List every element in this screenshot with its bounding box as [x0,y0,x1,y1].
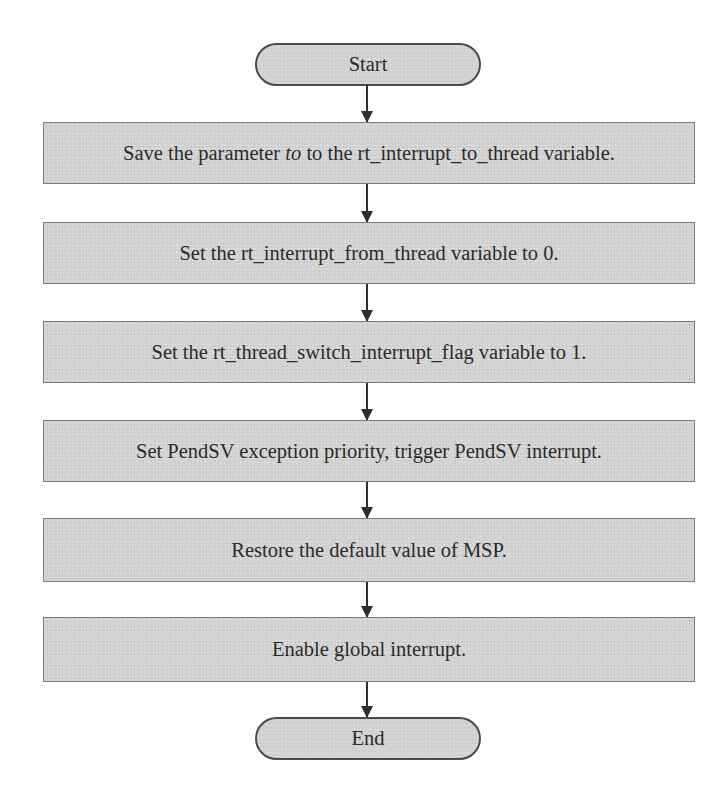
step-4-label: Set PendSV exception priority, trigger P… [136,440,602,463]
step-1-save-parameter: Save the parameter to to the rt_interrup… [43,122,695,184]
step-5-restore-msp: Restore the default value of MSP. [43,518,695,582]
step-1-label: Save the parameter to to the rt_interrup… [123,142,615,165]
arrow-step-6-to-end [366,682,368,717]
step-1-text-pre: Save the parameter [123,142,285,164]
step-5-label: Restore the default value of MSP. [231,539,507,562]
arrow-step-1-to-step-2 [366,184,368,222]
step-1-text-emphasis: to [285,142,301,164]
step-6-label: Enable global interrupt. [272,638,466,661]
step-3-label: Set the rt_thread_switch_interrupt_flag … [152,341,587,364]
arrow-step-2-to-step-3 [366,284,368,321]
arrow-start-to-step-1 [366,85,368,122]
step-1-text-post: to the rt_interrupt_to_thread variable. [301,142,615,164]
step-2-set-from-thread: Set the rt_interrupt_from_thread variabl… [43,222,695,284]
arrow-step-4-to-step-5 [366,482,368,518]
end-label: End [351,727,384,750]
start-label: Start [349,53,388,76]
arrow-step-3-to-step-4 [366,383,368,420]
start-terminal: Start [255,43,481,86]
step-4-trigger-pendsv: Set PendSV exception priority, trigger P… [43,420,695,482]
arrow-step-5-to-step-6 [366,582,368,617]
end-terminal: End [255,717,481,760]
step-2-label: Set the rt_interrupt_from_thread variabl… [179,242,558,265]
step-3-set-switch-flag: Set the rt_thread_switch_interrupt_flag … [43,321,695,383]
step-6-enable-interrupt: Enable global interrupt. [43,617,695,682]
